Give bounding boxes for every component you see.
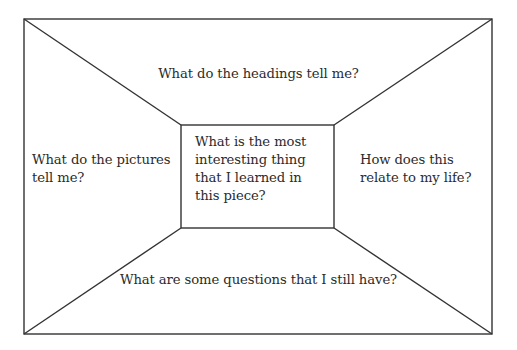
prompt-relate-to-life: How does this relate to my life? (360, 151, 490, 187)
prompt-headings: What do the headings tell me? (0, 65, 517, 83)
prompt-pictures: What do the pictures tell me? (32, 151, 177, 187)
prompt-questions: What are some questions that I still hav… (0, 271, 517, 289)
prompt-most-interesting: What is the most interesting thing that … (195, 133, 333, 205)
